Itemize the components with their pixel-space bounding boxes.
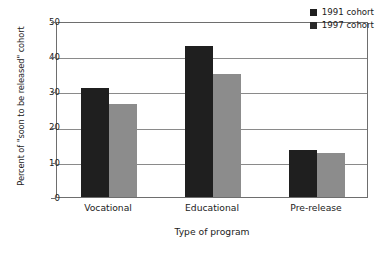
y-tick-mark bbox=[51, 198, 56, 199]
y-axis-title: Percent of "soon to be released" cohort bbox=[14, 6, 28, 206]
legend-swatch-icon bbox=[310, 22, 317, 29]
y-tick-label: 40 bbox=[38, 53, 60, 62]
bar-vocational-1991 bbox=[81, 88, 109, 197]
bar-pre-release-1997 bbox=[317, 153, 345, 197]
x-tick-label: Educational bbox=[162, 202, 262, 213]
x-tick-label: Pre-release bbox=[266, 202, 366, 213]
plot-area bbox=[56, 22, 368, 198]
bar-educational-1997 bbox=[213, 74, 241, 197]
y-tick-mark bbox=[51, 57, 56, 58]
y-tick-label: 50 bbox=[38, 18, 60, 27]
bar-vocational-1997 bbox=[109, 104, 137, 197]
legend-label: 1991 cohort bbox=[322, 8, 374, 17]
bar-pre-release-1991 bbox=[289, 150, 317, 197]
legend-item: 1991 cohort bbox=[310, 6, 374, 18]
y-tick-mark bbox=[51, 92, 56, 93]
y-tick-mark bbox=[51, 163, 56, 164]
legend-swatch-icon bbox=[310, 9, 317, 16]
bar-educational-1991 bbox=[185, 46, 213, 197]
y-tick-label: 0 bbox=[38, 194, 60, 203]
y-tick-mark bbox=[51, 128, 56, 129]
legend: 1991 cohort1997 cohort bbox=[310, 6, 374, 32]
legend-item: 1997 cohort bbox=[310, 19, 374, 31]
x-tick-label: Vocational bbox=[58, 202, 158, 213]
bar-chart: Percent of "soon to be released" cohort … bbox=[0, 0, 384, 256]
x-axis-title: Type of program bbox=[56, 226, 368, 237]
legend-label: 1997 cohort bbox=[322, 21, 374, 30]
y-tick-mark bbox=[51, 22, 56, 23]
y-tick-label: 20 bbox=[38, 123, 60, 132]
y-tick-label: 30 bbox=[38, 88, 60, 97]
y-tick-label: 10 bbox=[38, 159, 60, 168]
